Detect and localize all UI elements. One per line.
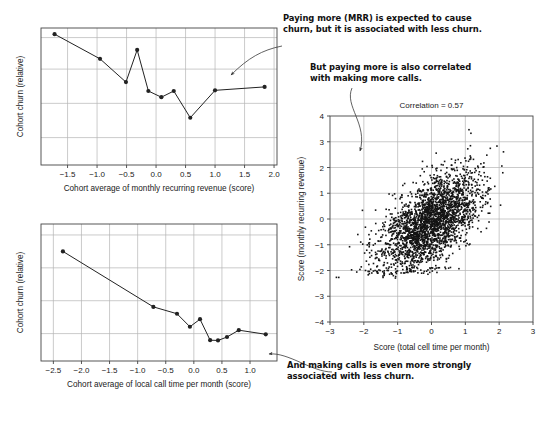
x-tick-label: −3 <box>325 327 335 336</box>
x-axis-title: Cohort average of monthly recurring reve… <box>64 184 255 193</box>
x-tick-label: 0.5 <box>216 366 228 375</box>
y-tick-label: 2 <box>320 164 325 173</box>
x-tick-label: −0.5 <box>119 170 135 179</box>
x-tick-label: −0.5 <box>158 366 174 375</box>
x-axis-ticks: −2.5−2.0−1.5−1.0−0.50.00.51.0 <box>45 361 256 375</box>
x-tick-label: 1 <box>463 327 468 336</box>
data-point <box>151 305 155 309</box>
x-tick-label: 2 <box>497 327 502 336</box>
x-axis-ticks: −3−2−10123 <box>325 322 535 336</box>
x-tick-label: 0 <box>429 327 434 336</box>
x-axis-title: Cohort average of local call time per mo… <box>67 380 251 389</box>
annotation-calls-churn: And making calls is even more strongly a… <box>287 360 537 382</box>
annotation-mrr-calls: But paying more is also correlated with … <box>310 62 540 84</box>
data-point <box>263 85 267 89</box>
series-markers <box>52 32 266 120</box>
y-tick-label: −3 <box>315 292 325 301</box>
data-point <box>61 249 65 253</box>
x-tick-label: 1.0 <box>209 170 221 179</box>
data-point <box>146 89 150 93</box>
data-point <box>225 335 229 339</box>
y-axis-title: Cohort churn (relative) <box>16 252 25 334</box>
chart-mrr-vs-calls-scatter: −3−2−10123−4−3−2−101234Correlation = 0.5… <box>297 101 536 352</box>
data-point <box>188 325 192 329</box>
series-line <box>55 34 265 118</box>
y-tick-label: 0 <box>320 215 325 224</box>
data-point <box>172 89 176 93</box>
data-point <box>264 332 268 336</box>
x-tick-label: 0.0 <box>188 366 200 375</box>
y-axis-title: Cohort churn (relative) <box>16 56 25 138</box>
chart-title: Correlation = 0.57 <box>400 101 464 110</box>
x-tick-label: −1.0 <box>89 170 105 179</box>
x-tick-label: 0.0 <box>150 170 162 179</box>
y-axis-title: Score (monthly recurring revenue) <box>297 157 306 282</box>
y-tick-label: −1 <box>315 241 325 250</box>
data-point <box>188 116 192 120</box>
y-tick-label: 1 <box>320 189 325 198</box>
x-tick-label: −1.5 <box>60 170 76 179</box>
chart-calls-churn: −2.5−2.0−1.5−1.0−0.50.00.51.0Cohort aver… <box>16 224 277 389</box>
data-point <box>135 48 139 52</box>
figure-panel: −1.5−1.0−0.50.00.51.01.52.0Cohort averag… <box>0 0 558 421</box>
x-tick-label: 0.5 <box>180 170 192 179</box>
series-markers <box>61 249 268 342</box>
y-tick-label: −2 <box>315 267 325 276</box>
scatter-points <box>336 129 505 279</box>
series-line <box>63 251 266 340</box>
x-tick-label: −2 <box>359 327 369 336</box>
data-point <box>175 312 179 316</box>
grid-lines <box>41 224 277 361</box>
data-point <box>213 88 217 92</box>
x-axis-title: Score (total cell time per month) <box>373 343 489 352</box>
y-tick-label: 4 <box>320 112 325 121</box>
data-point <box>52 32 56 36</box>
plot-frame <box>41 224 277 361</box>
x-tick-label: 2.0 <box>268 170 280 179</box>
data-point <box>237 328 241 332</box>
data-point <box>159 95 163 99</box>
x-tick-label: −1.0 <box>130 366 146 375</box>
y-axis-ticks: −4−3−2−101234 <box>315 112 330 327</box>
data-point <box>198 317 202 321</box>
chart-mrr-churn: −1.5−1.0−0.50.00.51.01.52.0Cohort averag… <box>16 28 280 193</box>
x-tick-label: −2.5 <box>45 366 61 375</box>
data-point <box>208 338 212 342</box>
data-point <box>124 80 128 84</box>
y-tick-label: −4 <box>315 318 325 327</box>
data-point <box>216 338 220 342</box>
y-tick-label: 3 <box>320 138 325 147</box>
x-tick-label: −1 <box>393 327 403 336</box>
x-tick-label: 3 <box>531 327 536 336</box>
x-tick-label: 1.0 <box>244 366 256 375</box>
x-tick-label: −2.0 <box>74 366 90 375</box>
x-tick-label: −1.5 <box>102 366 118 375</box>
x-axis-ticks: −1.5−1.0−0.50.00.51.01.52.0 <box>60 165 281 179</box>
annotation-mrr-churn: Paying more (MRR) is expected to cause c… <box>283 13 533 35</box>
data-point <box>98 57 102 61</box>
x-tick-label: 1.5 <box>239 170 251 179</box>
